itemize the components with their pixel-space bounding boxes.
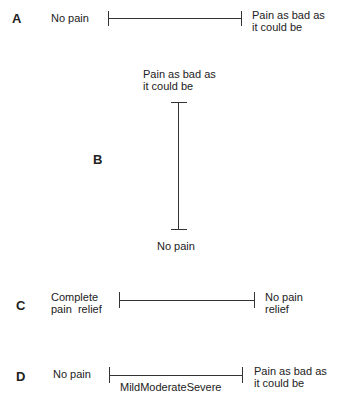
- scale-c-right-text-1: No pain: [265, 291, 303, 303]
- scale-c-label: C: [16, 298, 25, 313]
- scale-b-top-text-1: Pain as bad as: [143, 68, 216, 80]
- scale-a-right-tick: [241, 11, 242, 26]
- scale-d-right-text-1: Pain as bad as: [254, 365, 327, 377]
- scale-c-right-text-2: relief: [265, 303, 289, 315]
- scale-c-left-text-1: Complete: [51, 291, 98, 303]
- scale-a-right-text-2: it could be: [252, 21, 302, 33]
- scale-b-top-tick: [171, 102, 187, 103]
- scale-d-line: [109, 375, 243, 376]
- pain-scales-diagram: A No pain Pain as bad as it could be Pai…: [0, 0, 345, 403]
- scale-a-right-text-1: Pain as bad as: [252, 9, 325, 21]
- scale-d-left-text: No pain: [53, 368, 91, 380]
- scale-c-line: [120, 300, 255, 301]
- scale-d-right-tick: [242, 367, 243, 383]
- scale-d-left-tick: [109, 367, 110, 383]
- scale-a-label: A: [12, 11, 21, 26]
- scale-d-label: D: [16, 369, 25, 384]
- scale-c-left-text-2: pain relief: [51, 303, 102, 315]
- scale-b-line: [178, 102, 179, 230]
- scale-a-left-tick: [108, 11, 109, 26]
- scale-a-left-text: No pain: [51, 12, 89, 24]
- scale-b-bottom-tick: [171, 229, 187, 230]
- scale-d-right-text-2: it could be: [254, 377, 304, 389]
- scale-d-below-text: MildModerateSevere: [120, 381, 222, 393]
- scale-a-line: [108, 18, 242, 19]
- scale-b-top-text-2: it could be: [143, 80, 193, 92]
- scale-b-label: B: [93, 152, 102, 167]
- scale-b-bottom-text: No pain: [157, 240, 195, 252]
- scale-c-right-tick: [254, 292, 255, 308]
- scale-c-left-tick: [119, 292, 120, 308]
